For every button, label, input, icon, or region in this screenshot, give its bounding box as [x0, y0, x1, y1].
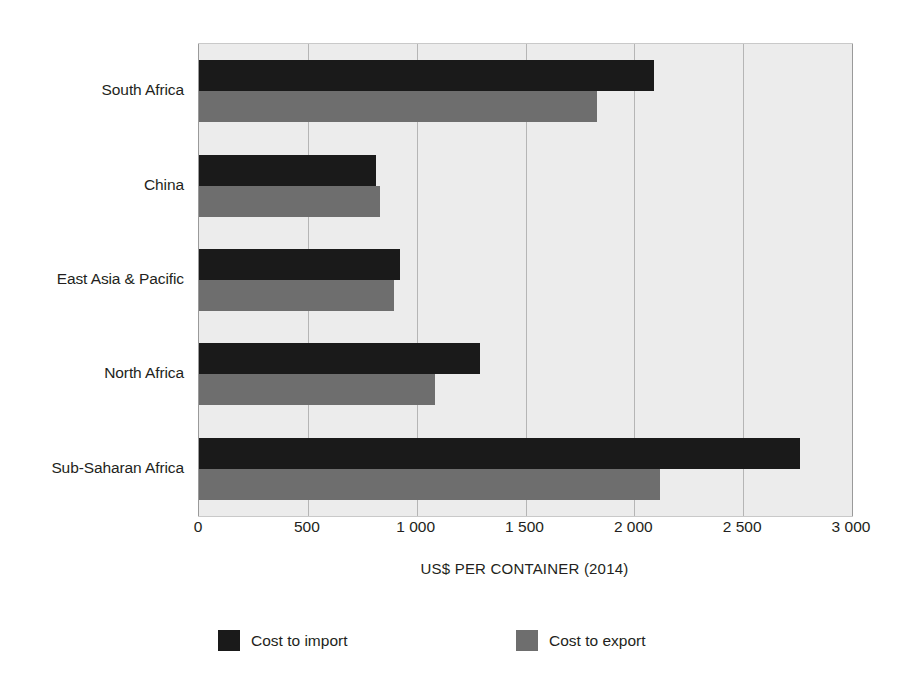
- x-tick-label-500: 500: [294, 519, 320, 535]
- plot-area: [198, 43, 853, 517]
- x-tick-label-3000: 3 000: [832, 519, 871, 535]
- x-tick-label-1500: 1 500: [505, 519, 544, 535]
- legend-item-cost-to-export[interactable]: Cost to export: [516, 630, 646, 651]
- plot-right-edge: [852, 44, 853, 516]
- bar-sub-saharan-africa-cost-to-export: [199, 469, 660, 500]
- bar-sub-saharan-africa-cost-to-import: [199, 438, 800, 469]
- x-axis-title: US$ PER CONTAINER (2014): [198, 560, 851, 577]
- bar-north-africa-cost-to-export: [199, 374, 435, 405]
- category-label-china: China: [0, 177, 184, 193]
- x-tick-label-0: 0: [194, 519, 203, 535]
- chart-legend: Cost to importCost to export: [198, 630, 851, 660]
- x-tick-label-1000: 1 000: [396, 519, 435, 535]
- category-label-east-asia-pacific: East Asia & Pacific: [0, 271, 184, 287]
- legend-swatch-icon: [516, 630, 538, 651]
- category-label-south-africa: South Africa: [0, 82, 184, 98]
- x-tick-label-2500: 2 500: [723, 519, 762, 535]
- bar-china-cost-to-export: [199, 186, 380, 217]
- bar-east-asia-pacific-cost-to-export: [199, 280, 394, 311]
- legend-label: Cost to import: [251, 633, 347, 649]
- bar-china-cost-to-import: [199, 155, 376, 186]
- x-axis-tick-labels: 05001 0001 5002 0002 5003 000: [198, 519, 851, 545]
- category-label-sub-saharan-africa: Sub-Saharan Africa: [0, 460, 184, 476]
- category-label-north-africa: North Africa: [0, 365, 184, 381]
- legend-item-cost-to-import[interactable]: Cost to import: [218, 630, 347, 651]
- bar-chart: South AfricaChinaEast Asia & PacificNort…: [0, 0, 917, 688]
- legend-label: Cost to export: [549, 633, 646, 649]
- bar-south-africa-cost-to-export: [199, 91, 597, 122]
- bar-north-africa-cost-to-import: [199, 343, 480, 374]
- legend-swatch-icon: [218, 630, 240, 651]
- x-tick-label-2000: 2 000: [614, 519, 653, 535]
- bar-south-africa-cost-to-import: [199, 60, 654, 91]
- category-axis-labels: South AfricaChinaEast Asia & PacificNort…: [0, 43, 184, 515]
- bar-east-asia-pacific-cost-to-import: [199, 249, 400, 280]
